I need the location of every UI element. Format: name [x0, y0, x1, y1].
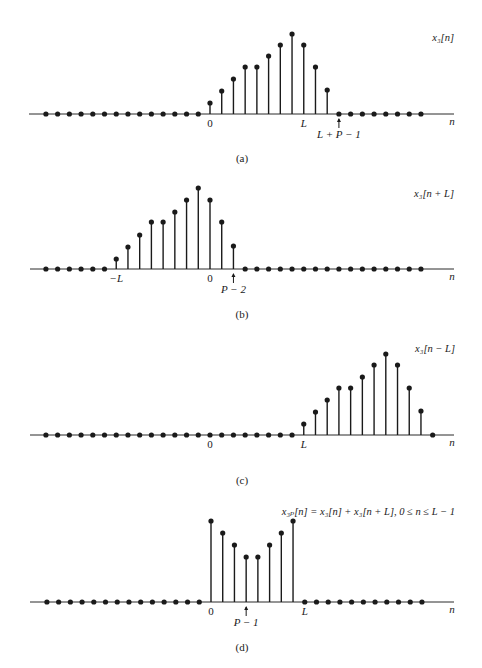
zero-sample-dot	[418, 266, 423, 271]
stem-dot	[231, 243, 236, 248]
zero-sample-dot	[55, 266, 60, 271]
zero-sample-dot	[196, 432, 201, 437]
zero-sample-dot	[114, 111, 119, 116]
zero-sample-dot	[43, 266, 48, 271]
stem-dot	[232, 542, 237, 547]
stem-dot	[114, 256, 119, 261]
zero-sample-dot	[67, 266, 72, 271]
stem-plot-figure: 0LL + P − 1nx₃[n](a)−L0P − 2nx₃[n + L](b…	[0, 0, 482, 668]
zero-sample-dot	[360, 111, 365, 116]
stem-dot	[267, 542, 272, 547]
zero-sample-dot	[149, 432, 154, 437]
zero-sample-dot	[55, 111, 60, 116]
tick-label: 0	[208, 605, 214, 617]
zero-sample-dot	[44, 599, 49, 604]
zero-sample-dot	[102, 111, 107, 116]
zero-sample-dot	[336, 266, 341, 271]
zero-sample-dot	[102, 266, 107, 271]
zero-sample-dot	[172, 432, 177, 437]
zero-sample-dot	[137, 111, 142, 116]
zero-sample-dot	[361, 599, 366, 604]
zero-sample-dot	[348, 111, 353, 116]
zero-sample-dot	[56, 599, 61, 604]
zero-sample-dot	[78, 111, 83, 116]
zero-sample-dot	[125, 432, 130, 437]
zero-sample-dot	[137, 432, 142, 437]
stem-dot	[184, 197, 189, 202]
zero-sample-dot	[90, 432, 95, 437]
stem-dot	[336, 385, 341, 390]
arrow-label: L + P − 1	[316, 128, 361, 140]
zero-sample-dot	[313, 266, 318, 271]
stem-dot	[301, 42, 306, 47]
zero-sample-dot	[278, 266, 283, 271]
tick-label: 0	[207, 272, 213, 284]
tick-label: L	[300, 117, 307, 129]
zero-sample-dot	[185, 599, 190, 604]
zero-sample-dot	[207, 432, 212, 437]
stem-dot	[383, 351, 388, 356]
stem-dot	[254, 64, 259, 69]
tick-label: 0	[207, 117, 213, 129]
zero-sample-dot	[43, 432, 48, 437]
stem-dot	[360, 374, 365, 379]
stem-dot	[348, 385, 353, 390]
zero-sample-dot	[254, 266, 259, 271]
stem-dot	[278, 42, 283, 47]
arrow-label: P − 2	[220, 283, 246, 295]
stem-dot	[161, 219, 166, 224]
zero-sample-dot	[326, 599, 331, 604]
arrowhead-icon	[244, 606, 248, 610]
stem-dot	[125, 244, 130, 249]
panel-a: 0LL + P − 1nx₃[n](a)	[29, 31, 455, 165]
zero-sample-dot	[126, 599, 131, 604]
zero-sample-dot	[360, 266, 365, 271]
arrowhead-icon	[337, 118, 341, 122]
zero-sample-dot	[67, 432, 72, 437]
stem-dot	[289, 31, 294, 36]
stem-dot	[243, 64, 248, 69]
axis-n-label: n	[449, 115, 455, 127]
stem-dot	[255, 554, 260, 559]
panel-caption: (a)	[236, 152, 249, 165]
zero-sample-dot	[138, 599, 143, 604]
stem-dot	[325, 397, 330, 402]
zero-sample-dot	[115, 599, 120, 604]
zero-sample-dot	[407, 111, 412, 116]
stem-dot	[395, 362, 400, 367]
signal-label: x₃[n + L]	[413, 188, 454, 199]
zero-sample-dot	[395, 266, 400, 271]
zero-sample-dot	[103, 599, 108, 604]
tick-label: −L	[109, 272, 123, 284]
stem-dot	[207, 197, 212, 202]
zero-sample-dot	[150, 599, 155, 604]
zero-sample-dot	[395, 111, 400, 116]
zero-sample-dot	[55, 432, 60, 437]
zero-sample-dot	[289, 432, 294, 437]
zero-sample-dot	[325, 266, 330, 271]
zero-sample-dot	[231, 432, 236, 437]
zero-sample-dot	[219, 432, 224, 437]
tick-label: L	[301, 605, 308, 617]
zero-sample-dot	[348, 266, 353, 271]
zero-sample-dot	[90, 266, 95, 271]
stem-dot	[149, 219, 154, 224]
zero-sample-dot	[172, 111, 177, 116]
stem-dot	[371, 362, 376, 367]
zero-sample-dot	[302, 599, 307, 604]
zero-sample-dot	[430, 432, 435, 437]
zero-sample-dot	[243, 432, 248, 437]
zero-sample-dot	[407, 266, 412, 271]
tick-label: 0	[207, 438, 213, 450]
stem-dot	[301, 421, 306, 426]
stem-dot	[279, 530, 284, 535]
zero-sample-dot	[68, 599, 73, 604]
stem-dot	[407, 385, 412, 390]
panel-caption: (d)	[236, 641, 249, 654]
zero-sample-dot	[43, 111, 48, 116]
zero-sample-dot	[78, 266, 83, 271]
zero-sample-dot	[266, 432, 271, 437]
stem-dot	[137, 232, 142, 237]
axis-n-label: n	[449, 603, 455, 615]
zero-sample-dot	[79, 599, 84, 604]
